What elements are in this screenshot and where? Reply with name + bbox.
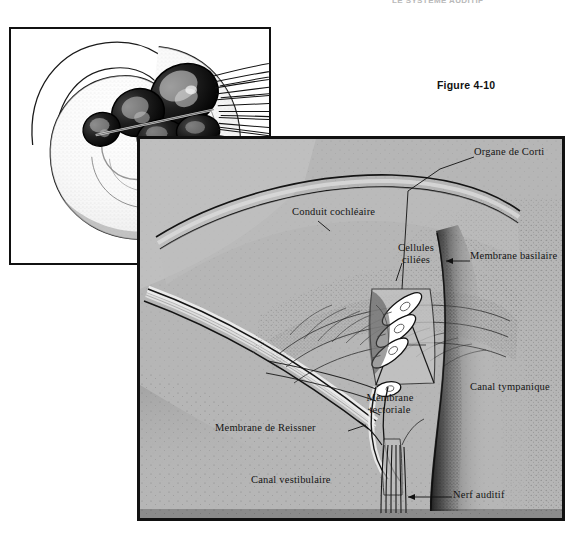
label-membrane-basilaire: Membrane basilaire bbox=[470, 250, 557, 262]
label-conduit-cochleaire: Conduit cochléaire bbox=[292, 206, 375, 218]
label-nerf-auditif: Nerf auditif bbox=[453, 489, 505, 501]
label-cellules-ciliees-line2: ciliées bbox=[402, 254, 430, 265]
label-membrane-tectoriale-line2: tectoriale bbox=[369, 404, 410, 415]
label-canal-tympanique: Canal tympanique bbox=[470, 381, 550, 393]
label-cellules-ciliees-line1: Cellules bbox=[398, 242, 434, 253]
label-organe-de-corti: Organe de Corti bbox=[474, 146, 544, 158]
running-head: LE SYSTÈME AUDITIF bbox=[392, 0, 572, 6]
cochlear-cross-section-illustration bbox=[140, 139, 562, 518]
figure-page: LE SYSTÈME AUDITIF bbox=[0, 0, 581, 540]
label-membrane-tectoriale-line1: Membrane bbox=[366, 392, 413, 403]
label-canal-vestibulaire: Canal vestibulaire bbox=[251, 474, 331, 486]
figure-number-label: Figure 4-10 bbox=[437, 79, 495, 91]
label-cellules-ciliees: Cellules ciliées bbox=[393, 242, 439, 266]
label-membrane-de-reissner: Membrane de Reissner bbox=[215, 422, 316, 434]
label-membrane-tectoriale: Membrane tectoriale bbox=[365, 392, 415, 416]
cochlear-cross-section-panel bbox=[137, 136, 565, 521]
